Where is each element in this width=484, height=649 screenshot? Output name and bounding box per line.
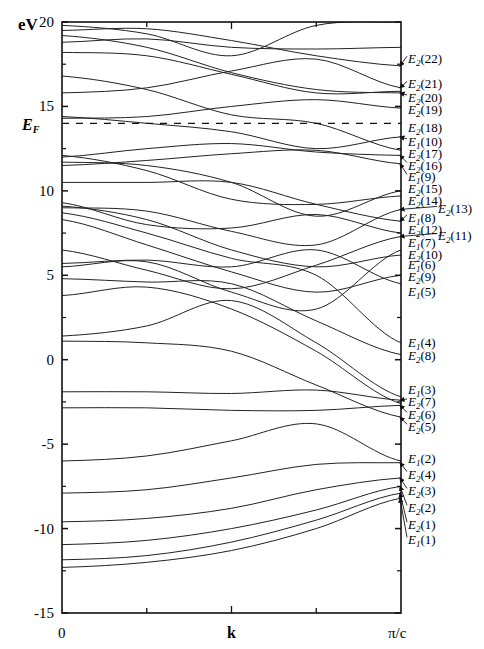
x-tick-label-start: 0 (58, 625, 66, 641)
band-v5 (62, 463, 401, 493)
band-v6 (62, 423, 401, 461)
band-b18 (62, 206, 401, 267)
band-b10 (62, 300, 401, 396)
band-b32 (62, 36, 401, 93)
band-v2 (62, 493, 401, 560)
band-b15 (62, 250, 401, 284)
band-b9 (62, 341, 401, 417)
band-structure-chart: 20151050-5-10-15 E2(22)E2(21)E2(20)E2(19… (0, 0, 484, 649)
band-labels-right: E2(22)E2(21)E2(20)E2(19)E2(18)E1(10)E2(1… (400, 51, 472, 549)
band-label: E1(5) (407, 284, 436, 301)
y-tick-label: -15 (34, 605, 54, 621)
band-b11 (62, 287, 401, 404)
plot-frame (62, 22, 401, 613)
band-label: E1(1) (407, 532, 436, 549)
band-b29 (62, 76, 401, 150)
y-tick-label: -10 (34, 521, 54, 537)
band-b26 (62, 100, 401, 119)
axis-ticks (62, 22, 401, 613)
band-curves (62, 22, 401, 568)
band-b28 (62, 59, 401, 93)
y-tick-label: 0 (47, 352, 55, 368)
band-label: E2(4) (407, 467, 436, 484)
band-b16 (62, 220, 401, 293)
band-b20 (62, 208, 401, 246)
band-label: E2(8) (407, 348, 436, 365)
band-v7 (62, 405, 401, 411)
y-tick-label: -5 (42, 436, 55, 452)
band-b19 (62, 203, 401, 233)
y-axis-unit: eV (18, 15, 39, 34)
band-label: E2(13) (437, 201, 472, 218)
band-label: E2(3) (407, 483, 436, 500)
y-tick-labels: 20151050-5-10-15 (34, 14, 54, 621)
band-b24 (62, 155, 401, 204)
x-axis-label: k (227, 624, 236, 641)
y-tick-label: 5 (47, 267, 55, 283)
band-label: E2(2) (407, 500, 436, 517)
y-tick-label: 10 (39, 183, 54, 199)
band-b12 (62, 279, 401, 355)
band-label: E2(5) (407, 419, 436, 436)
x-tick-label-end: π/c (388, 625, 407, 641)
y-tick-label: 15 (39, 98, 54, 114)
band-label: E2(22) (407, 51, 442, 68)
y-tick-label: 20 (39, 14, 54, 30)
band-label: E2(11) (437, 228, 472, 245)
band-label: E2(19) (407, 102, 442, 119)
fermi-label: EF (21, 116, 40, 135)
band-v8 (62, 390, 401, 400)
